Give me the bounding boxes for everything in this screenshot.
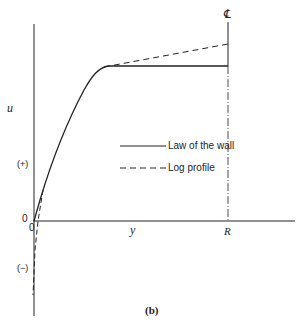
origin-label-x: 0 <box>29 222 35 233</box>
centerline-symbol: ℄ <box>223 7 231 22</box>
positive-label: (+) <box>17 159 28 169</box>
figure-caption: (b) <box>145 304 158 316</box>
negative-label: (−) <box>17 263 28 273</box>
x-axis-label: y <box>130 223 135 238</box>
x-mark-R: R <box>224 225 231 237</box>
diagram-canvas <box>0 0 304 326</box>
legend-label-log-profile: Log profile <box>168 162 215 173</box>
y-axis-label: u <box>7 101 13 116</box>
log-profile-curve <box>104 44 228 67</box>
legend-label-law-of-wall: Law of the wall <box>168 140 234 151</box>
origin-label-y: 0 <box>22 213 28 224</box>
